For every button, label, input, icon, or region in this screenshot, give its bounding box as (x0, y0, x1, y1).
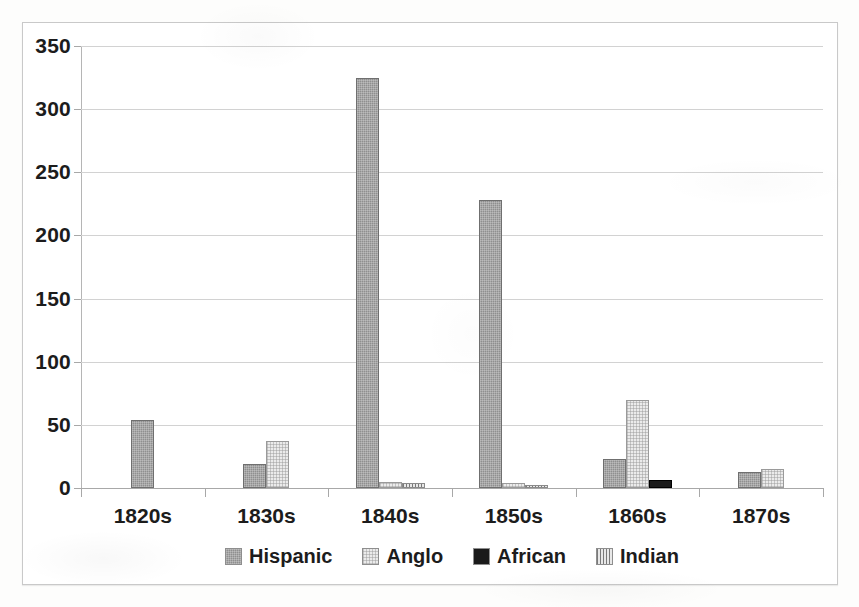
legend-item-hispanic[interactable]: Hispanic (225, 546, 332, 566)
bar-hispanic-1860s[interactable] (603, 459, 626, 488)
bar-hispanic-1830s[interactable] (243, 464, 266, 488)
legend-item-anglo[interactable]: Anglo (362, 546, 443, 566)
bar-group-1870s (699, 46, 823, 488)
x-tick-mark-1820s (81, 488, 82, 497)
y-tick-label: 300 (25, 98, 71, 119)
x-axis-labels: 1820s1830s1840s1850s1860s1870s (81, 505, 823, 537)
bar-group-1850s (452, 46, 576, 488)
chart-frame: 350300250200150100500 1820s1830s1840s185… (22, 22, 838, 585)
y-tick-label: 350 (25, 35, 71, 56)
x-tick-label-1850s: 1850s (452, 505, 576, 526)
x-tick-label-1870s: 1870s (699, 505, 823, 526)
bar-hispanic-1820s[interactable] (131, 420, 154, 488)
bar-african-1860s[interactable] (649, 480, 672, 488)
legend-swatch-hispanic-icon (225, 548, 242, 565)
plot-area (81, 46, 823, 488)
y-tick-label: 50 (25, 414, 71, 435)
y-tick-label: 0 (25, 477, 71, 498)
bar-group-1820s (81, 46, 205, 488)
legend-swatch-anglo-icon (362, 548, 379, 565)
bar-hispanic-1870s[interactable] (738, 472, 761, 488)
legend-label: Hispanic (249, 546, 332, 566)
bar-group-1840s (328, 46, 452, 488)
legend-label: African (497, 546, 566, 566)
x-tick-mark-1870s (699, 488, 700, 497)
y-axis-labels: 350300250200150100500 (23, 23, 71, 584)
x-tick-mark-1860s (576, 488, 577, 497)
bar-anglo-1870s[interactable] (761, 469, 784, 488)
legend-swatch-african-icon (473, 548, 490, 565)
bar-group-1860s (576, 46, 700, 488)
bar-anglo-1860s[interactable] (626, 400, 649, 488)
x-tick-mark-end (823, 488, 824, 497)
bar-anglo-1830s[interactable] (266, 441, 289, 488)
bar-hispanic-1840s[interactable] (356, 78, 379, 488)
chart-legend: HispanicAngloAfricanIndian (81, 546, 823, 566)
x-tick-mark-1830s (205, 488, 206, 497)
legend-label: Indian (620, 546, 679, 566)
y-tick-label: 150 (25, 288, 71, 309)
x-tick-label-1830s: 1830s (205, 505, 329, 526)
x-tick-mark-1840s (328, 488, 329, 497)
bar-hispanic-1850s[interactable] (479, 200, 502, 488)
y-tick-label: 100 (25, 351, 71, 372)
legend-swatch-indian-icon (596, 548, 613, 565)
x-tick-label-1840s: 1840s (328, 505, 452, 526)
x-axis-tick-marks (81, 488, 823, 498)
chart-screenshot: 350300250200150100500 1820s1830s1840s185… (0, 0, 859, 607)
x-tick-label-1860s: 1860s (576, 505, 700, 526)
legend-label: Anglo (386, 546, 443, 566)
x-tick-label-1820s: 1820s (81, 505, 205, 526)
bar-group-1830s (205, 46, 329, 488)
y-tick-label: 250 (25, 161, 71, 182)
x-tick-mark-1850s (452, 488, 453, 497)
legend-item-indian[interactable]: Indian (596, 546, 679, 566)
legend-item-african[interactable]: African (473, 546, 566, 566)
y-tick-label: 200 (25, 224, 71, 245)
